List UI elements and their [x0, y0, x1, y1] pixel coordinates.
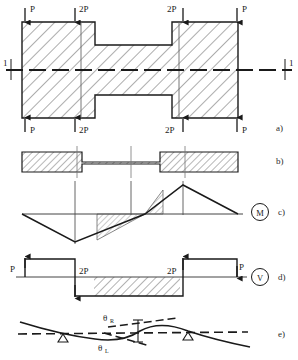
- moment-symbol-letter: M: [256, 208, 264, 218]
- shear-hatch-block: [94, 277, 180, 296]
- shear-label-2: 2P: [79, 266, 89, 276]
- load-label-bottom-3: 2P: [165, 125, 175, 135]
- deflected-curve: [20, 322, 250, 347]
- panel-b-section-profile: b): [22, 146, 284, 178]
- panel-letter-a: a): [276, 123, 283, 133]
- moment-hatch-left: [97, 214, 145, 240]
- load-label-top-1: P: [30, 4, 35, 14]
- theta-r-label: θ R: [103, 313, 114, 324]
- theta-r-symbol: θ: [103, 313, 107, 323]
- theta-r-subscript: R: [110, 318, 114, 324]
- shear-label-1: P: [10, 264, 15, 274]
- undeformed-axis: [18, 332, 248, 334]
- load-label-bottom-4: P: [242, 125, 247, 135]
- load-label-bottom-1: P: [30, 125, 35, 135]
- panel-letter-e: e): [278, 329, 285, 339]
- figure-root: 1 1 P 2P 2P P P 2P 2P P a): [0, 0, 298, 360]
- load-label-top-3: 2P: [167, 4, 177, 14]
- panel-c-moment-diagram: M c): [22, 181, 285, 244]
- bottom-load-group: P 2P 2P P: [25, 119, 247, 135]
- shear-symbol-letter: V: [257, 273, 264, 283]
- panel-letter-d: d): [278, 272, 286, 282]
- panel-a-beam-elevation: 1 1 P 2P 2P P P 2P 2P P a): [3, 4, 294, 135]
- theta-l-symbol: θ: [98, 343, 102, 353]
- load-label-top-2: 2P: [79, 4, 89, 14]
- shear-label-4: P: [239, 262, 244, 272]
- theta-l-label: θ L: [98, 343, 109, 354]
- beam-analysis-figure: 1 1 P 2P 2P P P 2P 2P P a): [0, 0, 298, 360]
- panel-letter-b: b): [276, 156, 284, 166]
- theta-l-subscript: L: [105, 348, 109, 354]
- load-label-bottom-2: 2P: [79, 125, 89, 135]
- panel-d-shear-diagram: P 2P 2P P V d): [10, 258, 286, 297]
- load-label-top-4: P: [242, 4, 247, 14]
- panel-e-deflection-diagram: θ R θ L e): [18, 313, 285, 354]
- section-label-right: 1: [289, 58, 294, 68]
- beam-body-b: [22, 152, 238, 172]
- panel-letter-c: c): [278, 207, 285, 217]
- shear-label-3: 2P: [167, 266, 177, 276]
- top-load-group: P 2P 2P P: [25, 4, 247, 21]
- support-left: [58, 334, 68, 342]
- section-label-left: 1: [3, 58, 8, 68]
